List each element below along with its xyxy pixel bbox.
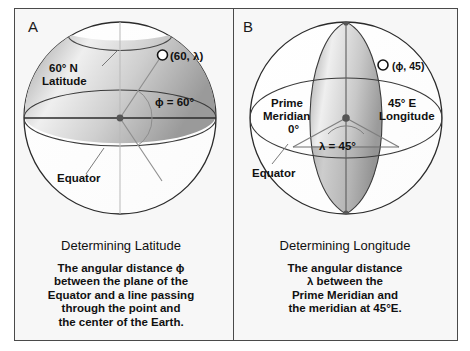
label-angle-lambda: λ = 45° xyxy=(319,140,356,152)
caption-line: the meridian at 45°E. xyxy=(238,302,452,315)
north-pole-dot xyxy=(343,20,348,25)
caption-line: between the plane of the xyxy=(14,275,228,288)
panel-a-title: Determining Latitude xyxy=(16,238,226,253)
longitude-globe-diagram: Prime Meridian 0° 45° E Longitude (ϕ, 45… xyxy=(246,14,451,229)
caption-line: The angular distance ϕ xyxy=(14,262,228,275)
label-longitude-line2: Longitude xyxy=(379,110,435,122)
caption-line: through the point and xyxy=(14,302,228,315)
caption-line: The angular distance xyxy=(238,262,452,275)
label-latitude-line1: 60° N xyxy=(49,62,78,74)
label-equator-b: Equator xyxy=(252,167,296,179)
point-marker-a xyxy=(158,50,168,60)
label-prime-meridian-line2: Meridian xyxy=(263,110,310,122)
label-prime-meridian-line1: Prime xyxy=(271,97,303,109)
figure-container: A B xyxy=(0,0,470,351)
latitude-globe-diagram: 60° N Latitude (60, λ) ϕ = 60° Equator xyxy=(20,14,225,229)
caption-line: Equator and a line passing xyxy=(14,289,228,302)
panel-b-caption: The angular distance λ between the Prime… xyxy=(238,262,452,316)
label-angle-phi: ϕ = 60° xyxy=(155,96,195,108)
caption-line: the center of the Earth. xyxy=(14,316,228,329)
label-point-b: (ϕ, 45) xyxy=(392,60,424,72)
earth-center-dot-b xyxy=(342,114,350,122)
caption-line: λ between the xyxy=(238,275,452,288)
caption-line: Prime Meridian and xyxy=(238,289,452,302)
earth-center-dot xyxy=(117,115,124,122)
label-latitude-line2: Latitude xyxy=(42,75,87,87)
label-point-a: (60, λ) xyxy=(170,50,203,62)
panel-b-title: Determining Longitude xyxy=(240,238,450,253)
panel-a-caption: The angular distance ϕ between the plane… xyxy=(14,262,228,329)
panel-divider xyxy=(233,9,234,340)
label-longitude-line1: 45° E xyxy=(388,97,417,109)
point-marker-b xyxy=(378,60,388,70)
label-prime-meridian-line3: 0° xyxy=(288,123,299,135)
label-equator-a: Equator xyxy=(57,172,101,184)
south-pole-dot xyxy=(343,210,348,215)
